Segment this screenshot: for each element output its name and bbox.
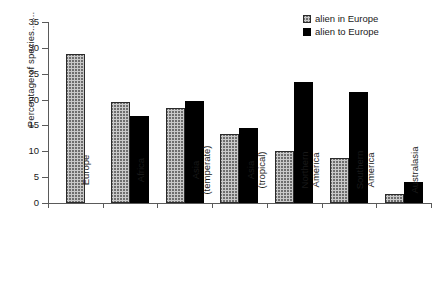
bar-group (103, 22, 158, 203)
x-axis-category-label: Asia (temperate) (191, 128, 212, 212)
x-axis-category-label: Africa (136, 128, 147, 212)
y-axis-tick-label: 0 (34, 197, 39, 208)
y-axis-tick-label: 15 (28, 119, 39, 130)
x-axis-tick (431, 203, 432, 208)
x-axis-category-label: Southern America (355, 128, 376, 212)
bar (330, 158, 349, 204)
legend-item-alien-in-europe: alien in Europe (303, 12, 379, 25)
y-axis-tick-label: 5 (34, 171, 39, 182)
bar-chart: Percentage of species....... 0 5 10 15 2… (0, 0, 441, 290)
x-axis-tick (48, 203, 49, 208)
bar (111, 102, 130, 203)
y-axis-tick-label: 25 (28, 68, 39, 79)
y-axis-tick-label: 10 (28, 145, 39, 156)
x-axis-tick (376, 203, 377, 208)
bar (385, 194, 404, 203)
x-axis-category-label: Northern America (300, 128, 321, 212)
bar-group (48, 22, 103, 203)
legend-item-alien-to-europe: alien to Europe (303, 25, 379, 38)
legend-swatch-hatched-icon (303, 15, 311, 23)
bar-group (376, 22, 431, 203)
x-axis-tick (212, 203, 213, 208)
bar (275, 151, 294, 203)
y-axis-tick-label: 20 (28, 94, 39, 105)
x-axis-tick (157, 203, 158, 208)
x-axis-tick (322, 203, 323, 208)
y-axis-tick-label: 30 (28, 42, 39, 53)
legend-label: alien in Europe (315, 12, 378, 25)
chart-legend: alien in Europe alien to Europe (303, 12, 379, 38)
bar (166, 108, 185, 203)
legend-label: alien to Europe (315, 25, 379, 38)
y-axis-tick-label: 35 (28, 16, 39, 27)
x-axis-category-label: Europe (81, 128, 92, 212)
bar (220, 134, 239, 203)
x-axis-tick (103, 203, 104, 208)
x-axis-tick (267, 203, 268, 208)
x-axis-category-label: Australasia (410, 128, 421, 212)
x-axis-category-label: Asia (tropical) (246, 128, 267, 212)
legend-swatch-solid-icon (303, 28, 311, 36)
